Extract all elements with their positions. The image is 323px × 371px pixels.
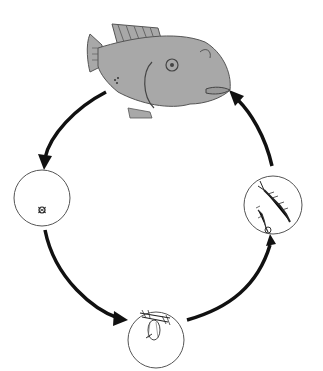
juvenile-stage-circle bbox=[244, 176, 302, 234]
larva-stage-circle bbox=[128, 310, 184, 368]
egg-stage-circle bbox=[14, 170, 70, 226]
arrow-juvenile-to-adult bbox=[229, 90, 272, 166]
arrow-adult-to-egg bbox=[38, 92, 106, 170]
fish-icon bbox=[87, 24, 230, 118]
arrow-larva-to-juvenile bbox=[187, 245, 270, 320]
arrow-egg-to-larva bbox=[45, 230, 128, 326]
arrowhead-into-juvenile bbox=[266, 234, 276, 246]
life-cycle-diagram: Adult fish Egg Larva Juvenile / post-lar… bbox=[0, 0, 323, 371]
